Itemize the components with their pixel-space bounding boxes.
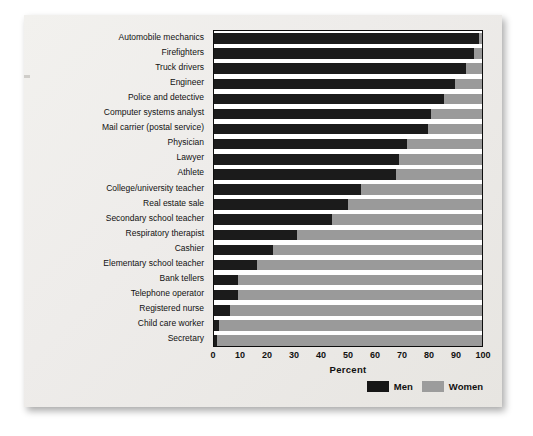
- category-label: Physician: [168, 138, 204, 147]
- bar-segment-women: [348, 199, 482, 210]
- stacked-bar: [214, 154, 482, 165]
- stacked-bar: [214, 305, 482, 316]
- scanned-chart-plate: Automobile mechanicsFirefightersTruck dr…: [24, 15, 502, 407]
- stacked-bar: [214, 33, 482, 44]
- bar-segment-men: [214, 79, 455, 90]
- category-label: College/university teacher: [106, 184, 204, 193]
- bar-row: [214, 214, 482, 225]
- stacked-bar: [214, 169, 482, 180]
- stacked-bar: [214, 79, 482, 90]
- category-label: Athlete: [178, 168, 204, 177]
- legend-label-men: Men: [394, 381, 413, 392]
- bar-segment-men: [214, 199, 348, 210]
- category-label: Registered nurse: [139, 304, 204, 313]
- bar-segment-men: [214, 139, 407, 150]
- stacked-bar: [214, 124, 482, 135]
- category-label: Elementary school teacher: [103, 259, 204, 268]
- bar-segment-women: [332, 214, 482, 225]
- bar-segment-women: [257, 260, 482, 271]
- bar-row: [214, 290, 482, 301]
- x-tick-label: 100: [475, 350, 490, 360]
- bar-segment-men: [214, 48, 474, 59]
- category-label: Child care worker: [138, 319, 204, 328]
- bar-segment-men: [214, 169, 396, 180]
- category-label: Lawyer: [177, 153, 204, 162]
- x-tick-label: 60: [370, 350, 380, 360]
- category-axis-labels: Automobile mechanicsFirefightersTruck dr…: [24, 30, 209, 347]
- stacked-bar: [214, 94, 482, 105]
- bar-segment-men: [214, 305, 230, 316]
- bar-row: [214, 184, 482, 195]
- stacked-bar: [214, 260, 482, 271]
- bar-segment-men: [214, 154, 399, 165]
- bar-segment-men: [214, 33, 479, 44]
- stacked-bar: [214, 139, 482, 150]
- x-tick-label: 30: [289, 350, 299, 360]
- bar-segment-men: [214, 124, 428, 135]
- bar-segment-men: [214, 260, 257, 271]
- stacked-bar: [214, 48, 482, 59]
- category-label: Cashier: [175, 244, 204, 253]
- bar-row: [214, 94, 482, 105]
- bar-segment-women: [428, 124, 482, 135]
- bar-segment-women: [431, 109, 482, 120]
- stacked-bar: [214, 290, 482, 301]
- bar-segment-women: [361, 184, 482, 195]
- x-axis-title: Percent: [213, 364, 483, 375]
- stacked-bar: [214, 245, 482, 256]
- bar-row: [214, 79, 482, 90]
- value-axis-ticks: 0102030405060708090100: [213, 348, 483, 364]
- legend-item-women: Women: [422, 381, 483, 392]
- bar-segment-women: [444, 94, 482, 105]
- stacked-bar: [214, 199, 482, 210]
- stacked-bar: [214, 230, 482, 241]
- stacked-bar: [214, 109, 482, 120]
- bar-row: [214, 154, 482, 165]
- category-label: Truck drivers: [155, 63, 204, 72]
- x-tick-label: 40: [316, 350, 326, 360]
- bar-row: [214, 169, 482, 180]
- bar-segment-women: [297, 230, 482, 241]
- category-label: Police and detective: [128, 93, 204, 102]
- bar-segment-women: [219, 320, 482, 331]
- legend-item-men: Men: [367, 381, 413, 392]
- bar-segment-women: [466, 63, 482, 74]
- bar-segment-women: [217, 335, 482, 346]
- bar-segment-women: [455, 79, 482, 90]
- x-tick-label: 50: [343, 350, 353, 360]
- bar-row: [214, 109, 482, 120]
- category-label: Secretary: [168, 334, 204, 343]
- stacked-bar: [214, 275, 482, 286]
- bar-segment-women: [238, 290, 482, 301]
- bar-row: [214, 230, 482, 241]
- bar-segment-women: [479, 33, 482, 44]
- figure-container: Automobile mechanicsFirefightersTruck dr…: [0, 0, 533, 436]
- category-label: Firefighters: [161, 48, 204, 57]
- bar-segment-women: [396, 169, 482, 180]
- bar-segment-men: [214, 109, 431, 120]
- category-label: Real estate sale: [143, 199, 204, 208]
- x-tick-label: 20: [262, 350, 272, 360]
- x-tick-label: 10: [235, 350, 245, 360]
- bar-row: [214, 139, 482, 150]
- bar-row: [214, 275, 482, 286]
- stacked-bar: [214, 335, 482, 346]
- bar-row: [214, 305, 482, 316]
- category-label: Mail carrier (postal service): [102, 123, 204, 132]
- bar-row: [214, 199, 482, 210]
- plot-area: [213, 30, 483, 347]
- bar-row: [214, 260, 482, 271]
- bar-segment-men: [214, 63, 466, 74]
- x-tick-label: 0: [210, 350, 215, 360]
- stacked-bar-chart: Automobile mechanicsFirefightersTruck dr…: [24, 15, 502, 407]
- bar-segment-women: [407, 139, 482, 150]
- bar-row: [214, 63, 482, 74]
- bar-segment-men: [214, 275, 238, 286]
- chart-legend: Men Women: [367, 381, 483, 392]
- category-label: Telephone operator: [131, 289, 204, 298]
- x-tick-label: 90: [451, 350, 461, 360]
- category-label: Computer systems analyst: [104, 108, 204, 117]
- stacked-bar: [214, 214, 482, 225]
- bar-row: [214, 335, 482, 346]
- category-label: Respiratory therapist: [126, 229, 204, 238]
